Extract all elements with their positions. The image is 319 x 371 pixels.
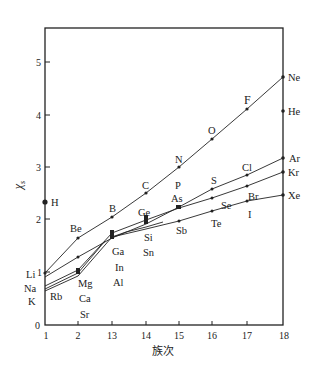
label-Si: Si bbox=[144, 232, 153, 243]
label-Br: Br bbox=[248, 191, 259, 202]
label-Sb: Sb bbox=[176, 225, 187, 236]
element-labels: H Li Na K Rb Be Mg Ca Sr B Ga In Al C Ge… bbox=[24, 72, 301, 320]
point-H bbox=[42, 199, 47, 204]
x-tick-15: 15 bbox=[174, 330, 184, 341]
label-Ga: Ga bbox=[112, 246, 125, 257]
y-axis-label: χs bbox=[11, 181, 27, 190]
y-tick-2: 2 bbox=[36, 214, 41, 225]
label-Xe: Xe bbox=[288, 190, 301, 201]
label-In: In bbox=[115, 262, 124, 273]
label-Te: Te bbox=[211, 218, 222, 229]
label-As: As bbox=[171, 193, 183, 204]
label-N: N bbox=[175, 154, 183, 165]
label-Sr: Sr bbox=[80, 309, 90, 320]
x-tick-18: 18 bbox=[279, 330, 289, 341]
label-Mg: Mg bbox=[78, 278, 93, 289]
label-Ar: Ar bbox=[289, 153, 301, 164]
label-K: K bbox=[28, 296, 36, 307]
y-tick-4: 4 bbox=[36, 110, 41, 121]
label-Na: Na bbox=[24, 283, 37, 294]
label-I: I bbox=[248, 209, 252, 220]
y-axis bbox=[45, 62, 50, 272]
label-P: P bbox=[175, 180, 181, 191]
electronegativity-chart: 0 1 2 3 4 5 χs 1 2 13 14 15 16 17 18 族次 bbox=[0, 0, 319, 371]
label-Al: Al bbox=[113, 277, 124, 288]
x-tick-1: 1 bbox=[44, 330, 49, 341]
x-tick-labels: 1 2 13 14 15 16 17 18 bbox=[44, 330, 290, 341]
label-Se: Se bbox=[221, 200, 232, 211]
x-tick-2: 2 bbox=[76, 330, 81, 341]
label-Kr: Kr bbox=[288, 167, 300, 178]
label-F: F bbox=[244, 93, 251, 107]
y-tick-5: 5 bbox=[36, 57, 41, 68]
label-H: H bbox=[51, 197, 59, 208]
x-tick-13: 13 bbox=[107, 330, 117, 341]
label-O: O bbox=[208, 125, 216, 136]
label-Ne: Ne bbox=[288, 72, 301, 83]
label-S: S bbox=[211, 175, 217, 186]
label-Li: Li bbox=[26, 269, 35, 280]
point-He bbox=[281, 109, 285, 113]
label-Be: Be bbox=[70, 223, 82, 234]
label-Rb: Rb bbox=[50, 291, 62, 302]
x-tick-16: 16 bbox=[207, 330, 217, 341]
label-B: B bbox=[109, 203, 116, 214]
x-axis-label: 族次 bbox=[152, 344, 174, 357]
label-Cl: Cl bbox=[242, 162, 252, 173]
label-Sn: Sn bbox=[143, 247, 155, 258]
label-Ca: Ca bbox=[79, 293, 91, 304]
label-He: He bbox=[288, 106, 301, 117]
y-tick-0: 0 bbox=[35, 320, 40, 331]
svg-text:χs: χs bbox=[11, 181, 27, 190]
y-tick-3: 3 bbox=[36, 162, 41, 173]
label-Ge: Ge bbox=[138, 207, 151, 218]
x-tick-14: 14 bbox=[141, 330, 151, 341]
label-C: C bbox=[142, 180, 149, 191]
x-tick-17: 17 bbox=[242, 330, 252, 341]
y-tick-1: 1 bbox=[37, 267, 42, 278]
